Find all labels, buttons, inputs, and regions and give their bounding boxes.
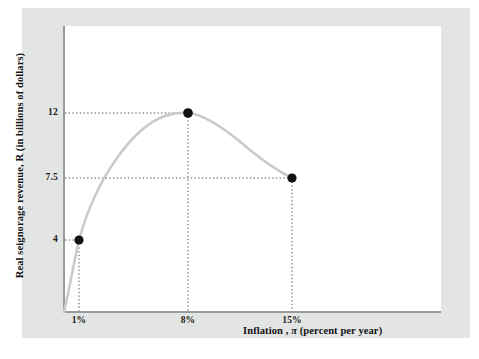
data-point-8pct bbox=[183, 108, 193, 118]
y-tick-label-4: 4 bbox=[30, 234, 58, 244]
x-tick-label-15pct: 15% bbox=[274, 315, 310, 325]
chart-svg bbox=[0, 0, 479, 359]
y-tick-label-7p5: 7.5 bbox=[30, 172, 58, 182]
x-tick-label-8pct: 8% bbox=[172, 315, 204, 325]
x-axis-label-suffix: (percent per year) bbox=[300, 325, 382, 336]
data-point-15pct bbox=[287, 173, 296, 182]
x-axis-label: Inflation , π (percent per year) bbox=[243, 325, 382, 336]
seignorage-curve bbox=[64, 113, 292, 312]
x-axis-label-prefix: Inflation , bbox=[243, 325, 288, 336]
y-tick-label-12: 12 bbox=[30, 107, 58, 117]
x-tick-label-1pct: 1% bbox=[63, 315, 95, 325]
data-point-1pct bbox=[74, 235, 83, 244]
figure-container: 12 7.5 4 1% 8% 15% Real seignorage reven… bbox=[0, 0, 479, 359]
pi-symbol-icon: π bbox=[291, 325, 297, 336]
y-axis-label: Real seignorage revenue, R (in billions … bbox=[14, 36, 25, 296]
